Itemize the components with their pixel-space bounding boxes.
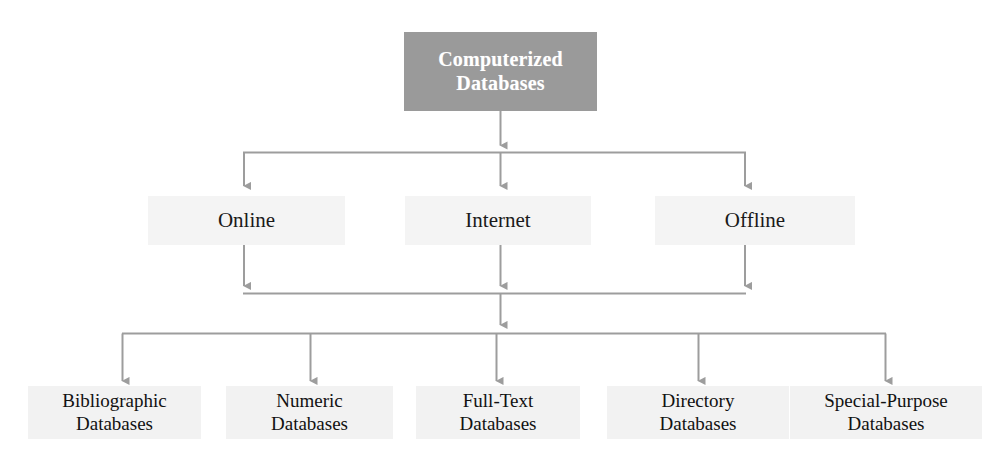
node-bibliographic-line-1: Bibliographic <box>32 390 197 412</box>
node-online[interactable]: Online <box>148 196 345 245</box>
node-numeric-line-2: Databases <box>230 413 389 435</box>
node-special-line-2: Databases <box>794 413 978 435</box>
node-fulltext-line-1: Full-Text <box>420 390 576 412</box>
node-directory-databases[interactable]: Directory Databases <box>607 386 789 439</box>
node-numeric-line-1: Numeric <box>230 390 389 412</box>
node-special-line-1: Special-Purpose <box>794 390 978 412</box>
node-special-purpose-databases-label: Special-Purpose Databases <box>790 390 982 435</box>
node-directory-databases-label: Directory Databases <box>607 390 789 435</box>
node-numeric-databases-label: Numeric Databases <box>226 390 393 435</box>
node-full-text-databases-label: Full-Text Databases <box>416 390 580 435</box>
connector-root-to-level2 <box>243 111 746 186</box>
node-special-purpose-databases[interactable]: Special-Purpose Databases <box>790 386 982 439</box>
node-offline[interactable]: Offline <box>655 196 855 245</box>
node-numeric-databases[interactable]: Numeric Databases <box>226 386 393 439</box>
node-internet[interactable]: Internet <box>405 196 591 245</box>
connector-level3-fanout <box>122 334 886 382</box>
node-bibliographic-databases-label: Bibliographic Databases <box>28 390 201 435</box>
connector-level2-to-merge <box>243 245 746 325</box>
node-bibliographic-databases[interactable]: Bibliographic Databases <box>28 386 201 439</box>
node-computerized-databases[interactable]: Computerized Databases <box>404 32 597 111</box>
node-root-line-2: Databases <box>408 72 593 96</box>
node-offline-label: Offline <box>655 208 855 233</box>
node-internet-label: Internet <box>405 208 591 233</box>
diagram-canvas: Computerized Databases Online Internet O… <box>0 0 1002 461</box>
node-bibliographic-line-2: Databases <box>32 413 197 435</box>
node-directory-line-1: Directory <box>611 390 785 412</box>
node-computerized-databases-label: Computerized Databases <box>404 48 597 95</box>
node-root-line-1: Computerized <box>408 48 593 72</box>
node-directory-line-2: Databases <box>611 413 785 435</box>
node-fulltext-line-2: Databases <box>420 413 576 435</box>
node-full-text-databases[interactable]: Full-Text Databases <box>416 386 580 439</box>
node-online-label: Online <box>148 208 345 233</box>
